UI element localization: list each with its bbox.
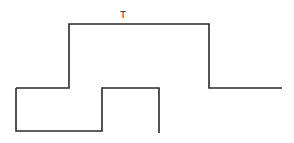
period-label: T (119, 10, 126, 20)
lower-pulse-waveform (16, 88, 159, 133)
timing-diagram: T (0, 0, 294, 143)
upper-pulse-waveform (16, 24, 282, 88)
